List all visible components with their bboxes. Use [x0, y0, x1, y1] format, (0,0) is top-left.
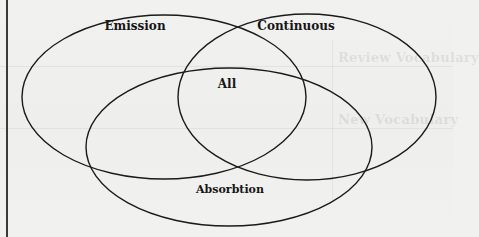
set-emission-ellipse	[22, 15, 306, 179]
set-absorbtion-ellipse	[86, 68, 372, 226]
set-continuous-ellipse	[178, 14, 436, 180]
set-label-emission: Emission	[104, 19, 165, 33]
intersection-label-all: All	[218, 77, 236, 91]
set-label-absorbtion: Absorbtion	[196, 183, 264, 196]
set-label-continuous: Continuous	[257, 19, 334, 33]
